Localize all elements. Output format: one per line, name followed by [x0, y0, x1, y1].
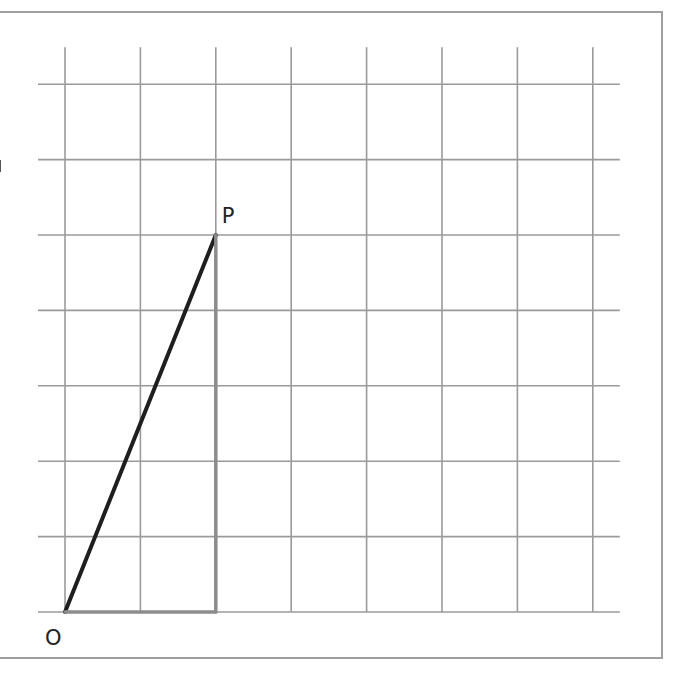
point-label-o: O	[45, 626, 62, 650]
point-label-p: P	[222, 204, 235, 228]
grid-diagram: P O	[0, 0, 677, 686]
grid-lines	[38, 47, 620, 612]
